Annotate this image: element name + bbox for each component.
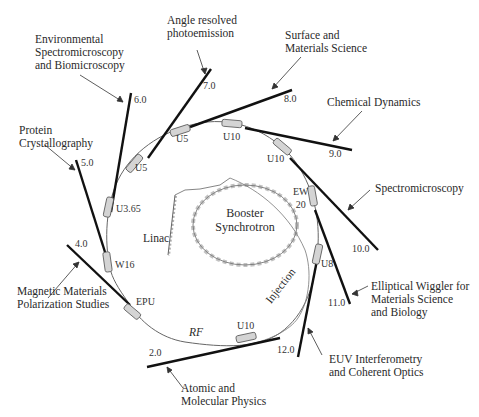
device-label-u5-a: U5	[135, 162, 147, 173]
device-label-ew20: EW 20	[293, 185, 309, 211]
device-label-u3-65: U3.65	[116, 203, 141, 214]
label-9-0-application: Chemical Dynamics	[327, 96, 421, 109]
beamline-number-8-0: 8.0	[284, 93, 297, 104]
linac-label: Linac	[143, 232, 169, 245]
booster-synchrotron-label: Booster Synchrotron	[208, 206, 282, 234]
beamline-number-12-0: 12.0	[277, 344, 295, 355]
device-label-epu: EPU	[136, 296, 155, 307]
beamline-number-6-0: 6.0	[134, 94, 147, 105]
label-10-0-application: Spectromicroscopy	[375, 182, 464, 195]
device-u10-a	[222, 119, 243, 128]
device-u3-65	[103, 197, 114, 218]
beamline-6-0	[111, 93, 131, 212]
beamline-number-10-0: 10.0	[352, 243, 370, 254]
device-label-u10-c: U10	[237, 320, 254, 331]
label-12-0-application: EUV Interferometry and Coherent Optics	[329, 353, 424, 379]
device-label-u10-b: U10	[267, 153, 284, 164]
label-6-0-application: Environmental Spectromicroscopy and Biom…	[35, 33, 125, 72]
device-u10-c	[236, 332, 257, 343]
label-2-0-application: Atomic and Molecular Physics	[181, 382, 266, 408]
beamline-number-5-0: 5.0	[81, 157, 94, 168]
device-w16	[103, 252, 113, 273]
device-label-w16: W16	[115, 259, 134, 270]
label-11-0-application: Elliptical Wiggler for Materials Science…	[371, 280, 469, 319]
beamline-number-11-0: 11.0	[328, 297, 345, 308]
rf-label: RF	[189, 326, 203, 339]
beamline-number-9-0: 9.0	[329, 148, 342, 159]
label-4-0-application: Magnetic Materials Polarization Studies	[17, 285, 109, 311]
beamline-number-7-0: 7.0	[203, 80, 216, 91]
label-8-0-application: Surface and Materials Science	[285, 29, 367, 55]
device-label-u8: U8	[321, 258, 333, 269]
beamline-2-0	[147, 338, 280, 367]
device-label-u5-b: U5	[176, 133, 188, 144]
beamline-number-2-0: 2.0	[149, 347, 162, 358]
label-5-0-application: Protein Crystallography	[19, 124, 93, 150]
beamline-number-4-0: 4.0	[75, 238, 88, 249]
device-label-u10-a: U10	[223, 131, 240, 142]
label-7-0-application: Angle resolved photoemission	[167, 14, 237, 40]
beamline-7-0	[148, 69, 211, 158]
